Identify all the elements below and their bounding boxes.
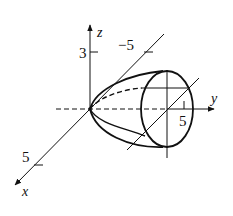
y-axis-label: y (209, 91, 218, 106)
x-tick-positive-label: 5 (22, 149, 30, 165)
paraboloid-diagram: 3 z 5 −5 x 5 y (0, 0, 233, 216)
y-tick-label: 5 (179, 113, 187, 129)
origin-point (88, 107, 92, 111)
paraboloid-front-curve (90, 109, 145, 136)
paraboloid-back-curve (90, 88, 142, 109)
x-axis-label: x (21, 184, 29, 199)
z-tick-label: 3 (79, 45, 87, 61)
x-tick-negative-label: −5 (118, 37, 134, 53)
z-axis-label: z (96, 25, 103, 40)
